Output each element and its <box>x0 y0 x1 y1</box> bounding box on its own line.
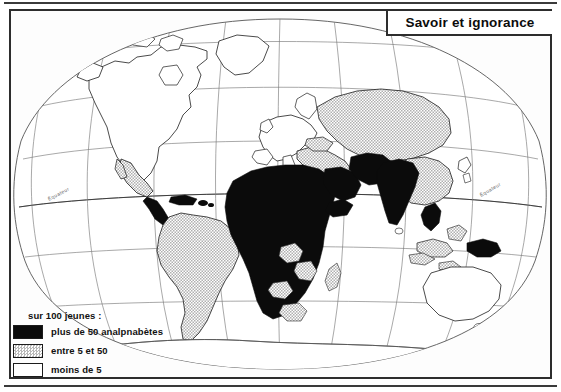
top-rule <box>4 2 557 4</box>
legend-label-low: moins de 5 <box>51 364 102 375</box>
legend-item-mid: entre 5 et 50 <box>13 342 223 359</box>
legend-heading: sur 100 jeunes : <box>28 310 223 321</box>
region-new-zealand <box>512 303 527 331</box>
bottom-rule <box>4 385 557 387</box>
legend-swatch-white <box>13 363 43 377</box>
legend-item-high: plus de 50 analpnabètes <box>13 323 223 340</box>
legend-label-mid: entre 5 et 50 <box>51 345 108 356</box>
figure-root: Équateur Équateur Savoir et ignorance su… <box>0 0 561 392</box>
legend-swatch-gray <box>13 344 43 358</box>
legend: sur 100 jeunes : plus de 50 analpnabètes… <box>13 310 223 380</box>
legend-item-low: moins de 5 <box>13 361 223 378</box>
legend-label-high: plus de 50 analpnabètes <box>51 326 163 337</box>
map-title: Savoir et ignorance <box>405 15 534 30</box>
map-title-box: Savoir et ignorance <box>386 11 552 36</box>
legend-swatch-black <box>13 325 43 339</box>
